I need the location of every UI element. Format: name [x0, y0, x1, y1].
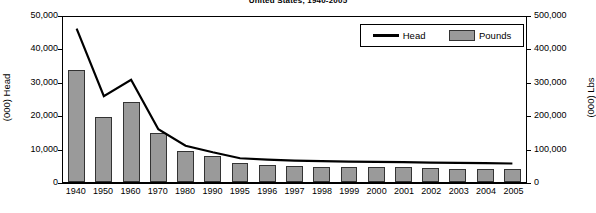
y-tick-mark [527, 150, 531, 151]
x-tick-label-1999: 1999 [336, 186, 363, 200]
chart-container: United States, 1940-2005 (000) Head (000… [0, 0, 596, 213]
y-tick-label-left-0: 0 [2, 177, 58, 187]
x-tick-label-1970: 1970 [144, 186, 171, 200]
x-tick-label-1940: 1940 [62, 186, 89, 200]
x-tick-label-1960: 1960 [117, 186, 144, 200]
legend-line-swatch-icon [373, 34, 399, 37]
y-tick-label-left-30000: 30,000 [2, 77, 58, 87]
y-tick-mark [527, 83, 531, 84]
x-tick-label-1996: 1996 [254, 186, 281, 200]
y-tick-label-right-200000: 200,000 [534, 110, 594, 120]
y-tick-label-left-40000: 40,000 [2, 43, 58, 53]
y-tick-mark [527, 16, 531, 17]
x-tick-label-2005: 2005 [500, 186, 527, 200]
x-axis-ticks: 1940195019601970198019901995199619971998… [62, 186, 527, 200]
x-tick-label-1995: 1995 [226, 186, 253, 200]
chart-title: United States, 1940-2005 [0, 0, 596, 5]
chart-legend: Head Pounds [360, 24, 524, 47]
legend-bar-swatch-icon [449, 30, 475, 41]
legend-label-pounds: Pounds [479, 30, 511, 41]
legend-item-pounds: Pounds [449, 30, 511, 41]
legend-item-head: Head [373, 30, 426, 41]
y-tick-mark [527, 183, 531, 184]
x-tick-label-2003: 2003 [445, 186, 472, 200]
x-tick-label-2000: 2000 [363, 186, 390, 200]
x-tick-label-1980: 1980 [171, 186, 198, 200]
y-tick-mark [527, 116, 531, 117]
x-tick-label-2001: 2001 [390, 186, 417, 200]
y-tick-label-left-20000: 20,000 [2, 110, 58, 120]
x-tick-label-1997: 1997 [281, 186, 308, 200]
y-tick-mark [527, 49, 531, 50]
x-tick-label-1950: 1950 [89, 186, 116, 200]
head-line-path [77, 29, 513, 164]
y-tick-label-right-0: 0 [534, 177, 594, 187]
y-tick-label-left-10000: 10,000 [2, 144, 58, 154]
x-tick-label-2002: 2002 [418, 186, 445, 200]
x-axis-line [62, 183, 527, 184]
legend-label-head: Head [403, 30, 426, 41]
y-tick-label-right-500000: 500,000 [534, 10, 594, 20]
y-axis-label-left: (000) Head [1, 65, 12, 131]
x-tick-label-2004: 2004 [472, 186, 499, 200]
x-tick-label-1990: 1990 [199, 186, 226, 200]
y-tick-label-left-50000: 50,000 [2, 10, 58, 20]
y-tick-label-right-300000: 300,000 [534, 77, 594, 87]
x-tick-label-1998: 1998 [308, 186, 335, 200]
y-tick-label-right-400000: 400,000 [534, 43, 594, 53]
y-tick-label-right-100000: 100,000 [534, 144, 594, 154]
y-axis-label-right: (000) Lbs [585, 65, 596, 131]
